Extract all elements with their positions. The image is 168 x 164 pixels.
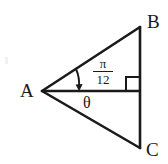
segment-AC bbox=[42, 91, 140, 148]
geometry-figure: A B C π 12 θ bbox=[0, 0, 168, 164]
vertex-label-c: C bbox=[146, 140, 159, 159]
vertex-label-b: B bbox=[147, 12, 160, 31]
right-angle-mark bbox=[126, 77, 140, 91]
fraction-numerator: π bbox=[91, 57, 115, 71]
fraction-denominator: 12 bbox=[91, 72, 115, 86]
angle-label-pi-over-12: π 12 bbox=[91, 57, 115, 86]
vertex-label-a: A bbox=[20, 81, 34, 100]
angle-label-theta: θ bbox=[83, 95, 91, 111]
